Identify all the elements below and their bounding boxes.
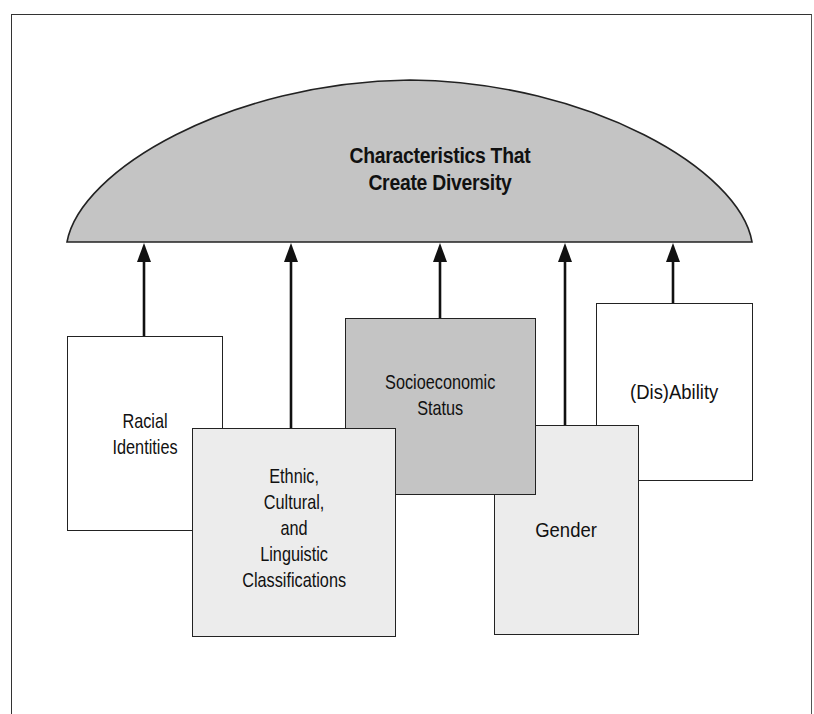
box-racial-label: Racial Identities [108, 408, 182, 460]
arrowhead-icon [284, 243, 298, 262]
box-disability-label: (Dis)Ability [630, 379, 718, 405]
arrowhead-icon [558, 243, 572, 262]
box-ethnic-label: Ethnic, Cultural, and Linguistic Classif… [235, 463, 353, 593]
arrowhead-icon [666, 243, 680, 262]
arrowheads [137, 243, 680, 262]
dome-title-line-2: Create Diversity [229, 169, 651, 196]
label-line: Cultural, [242, 489, 346, 515]
dome-title-line-1: Characteristics That [229, 142, 651, 169]
label-line: Ethnic, [242, 463, 346, 489]
label-line: Socioeconomic [385, 369, 495, 395]
box-gender-label: Gender [536, 517, 598, 543]
box-ethnic: Ethnic, Cultural, and Linguistic Classif… [192, 428, 396, 637]
arrowhead-icon [433, 243, 447, 262]
arrowhead-icon [137, 243, 151, 262]
box-socioeconomic-label: Socioeconomic Status [378, 369, 503, 421]
label-line: Identities [112, 434, 177, 460]
label-line: Status [385, 395, 495, 421]
label-line: Racial [112, 408, 177, 434]
label-line: Linguistic [242, 541, 346, 567]
label-line: and [242, 515, 346, 541]
label-line: Classifications [242, 567, 346, 593]
dome-title: Characteristics That Create Diversity [229, 142, 651, 196]
